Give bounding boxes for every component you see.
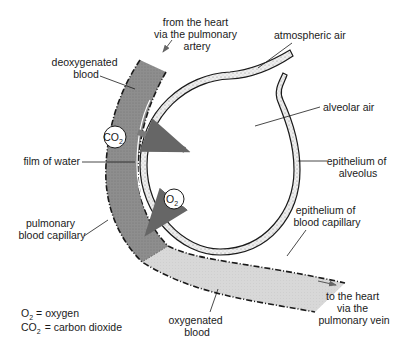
label-atmospheric-air: atmospheric air bbox=[274, 29, 346, 41]
leader-epithelium-capillary bbox=[287, 230, 306, 256]
label-epithelium-capillary: epithelium of blood capillary bbox=[293, 204, 361, 228]
alveolus-wall bbox=[140, 50, 300, 255]
inflow-arrow bbox=[163, 40, 172, 52]
oxygenated-blood-region bbox=[142, 246, 345, 312]
label-to-heart: to the heart via the pulmonary vein bbox=[318, 290, 389, 326]
label-deoxygenated-blood: deoxygenated blood bbox=[52, 56, 121, 80]
label-epithelium-alveolus: epithelium of alveolus bbox=[327, 155, 389, 179]
o2-molecule: O2 bbox=[164, 189, 184, 209]
legend-oxygen: O2= oxygen bbox=[21, 307, 79, 321]
label-film-of-water: film of water bbox=[23, 155, 80, 167]
legend-carbon-dioxide: CO2= carbon dioxide bbox=[21, 321, 122, 335]
label-pulmonary-capillary: pulmonary blood capillary bbox=[18, 217, 86, 241]
legend: O2= oxygen CO2= carbon dioxide bbox=[21, 307, 122, 335]
label-oxygenated-blood: oxygenated blood bbox=[168, 314, 225, 338]
leader-oxygenated bbox=[210, 289, 218, 312]
leader-pulmonary-capillary bbox=[84, 220, 108, 236]
label-alveolar-air: alveolar air bbox=[323, 101, 375, 113]
alveolus-diagram: CO2 O2 from the heart via the pulmonary … bbox=[0, 0, 408, 347]
co2-molecule: CO2 bbox=[103, 126, 126, 148]
